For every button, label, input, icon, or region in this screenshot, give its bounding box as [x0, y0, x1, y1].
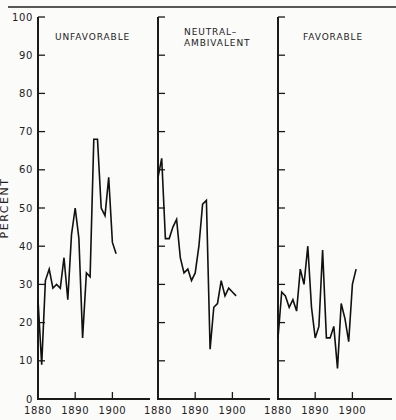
- y-tick-label: 50: [19, 203, 33, 214]
- x-tick-label: 1900: [98, 405, 126, 416]
- panel-unfavorable: UNFAVORABLE 188018901900: [24, 17, 150, 416]
- x-tick-label: 1900: [338, 405, 366, 416]
- panel-axes: [158, 17, 270, 399]
- panel-neutral-ambivalent: NEUTRAL– AMBIVALENT 188018901900: [144, 17, 270, 416]
- y-tick-label: 90: [19, 50, 33, 61]
- y-tick-label: 40: [19, 241, 33, 252]
- x-tick-label: 1880: [264, 405, 292, 416]
- y-tick-label: 70: [19, 126, 33, 137]
- chart: PERCENT 0102030405060708090100 UNFAVORAB…: [0, 0, 396, 420]
- panel-title-favorable: FAVORABLE: [303, 32, 363, 42]
- panel-axes: [38, 17, 150, 399]
- y-tick-labels: 0102030405060708090100: [12, 12, 33, 405]
- y-axis-title: PERCENT: [0, 178, 11, 239]
- x-tick-label: 1880: [24, 405, 52, 416]
- series-line-favorable: [278, 246, 356, 368]
- series-line-neutral-ambivalent: [158, 158, 236, 349]
- panel-title-unfavorable: UNFAVORABLE: [55, 32, 130, 42]
- x-tick-label: 1890: [181, 405, 209, 416]
- y-tick-label: 80: [19, 88, 33, 99]
- x-tick-label: 1900: [218, 405, 246, 416]
- x-tick-label: 1890: [301, 405, 329, 416]
- panel-title-neutral-line2: AMBIVALENT: [184, 38, 250, 48]
- y-tick-label: 10: [19, 355, 33, 366]
- panels: UNFAVORABLE 188018901900 NEUTRAL– AMBIVA…: [24, 17, 392, 416]
- y-tick-label: 30: [19, 279, 33, 290]
- panel-favorable: FAVORABLE 188018901900: [264, 17, 392, 416]
- series-line-unfavorable: [38, 139, 116, 364]
- y-tick-label: 20: [19, 317, 33, 328]
- x-tick-label: 1880: [144, 405, 172, 416]
- y-tick-label: 60: [19, 164, 33, 175]
- y-tick-label: 100: [12, 12, 33, 23]
- y-tick-label: 0: [26, 394, 33, 405]
- x-tick-label: 1890: [61, 405, 89, 416]
- panel-title-neutral-line1: NEUTRAL–: [184, 27, 237, 37]
